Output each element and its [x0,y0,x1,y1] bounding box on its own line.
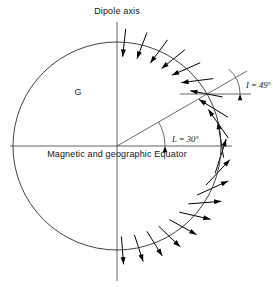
globe-region-label: G [74,87,81,97]
field-vector-arrowhead [208,109,214,116]
field-vector-arrowhead [150,56,156,63]
dipole-axis-label: Dipole axis [94,6,140,16]
figure-canvas: Dipole axis Magnetic and geographic Equa… [0,0,273,287]
field-vector-arrowhead [181,79,188,84]
latitude-angle-arc [159,122,165,146]
field-vector-arrowhead [221,181,229,186]
field-vector-arrowhead [121,49,126,56]
field-vector-group [121,29,230,264]
inclination-angle-label: I = 49° [245,80,272,90]
field-vector-arrowhead [156,248,162,255]
inclination-angle-arc [229,69,240,94]
field-vector-arrowhead [172,70,180,75]
field-vector-arrowhead [199,100,206,106]
field-vector-arrowhead [137,51,142,59]
inclination-angle-arrowhead [238,94,243,100]
equator-label: Magnetic and geographic Equator [47,149,187,159]
field-vector-arrowhead [139,254,144,262]
dipole-field-figure: Dipole axis Magnetic and geographic Equa… [0,0,273,287]
field-vector-arrowhead [189,229,197,235]
field-vector-arrowhead [203,215,211,220]
field-vector-arrowhead [222,139,227,147]
latitude-angle-label: L = 30° [171,134,199,144]
